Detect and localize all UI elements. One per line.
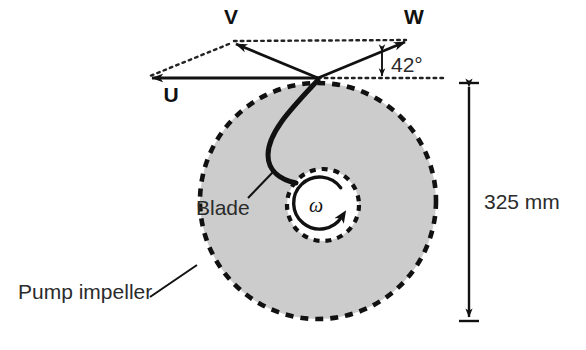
vector-label-v: V [224,5,238,28]
vector-label-u: U [163,83,178,106]
construction-line-v-w [234,40,406,41]
blade-label: Blade [196,196,250,219]
dimension-label: 325 mm [484,190,560,213]
vector-label-w: W [404,5,424,28]
omega-symbol: ω [309,194,323,216]
figure-root: ω V W U 42° Blade Pump impeller 325 mm [0,0,586,350]
vector-v-arrow [236,44,318,78]
impeller-leader-line [150,265,197,297]
impeller-label: Pump impeller [18,280,152,303]
angle-label: 42° [391,53,423,76]
construction-line-v-u [150,44,229,76]
pump-impeller-diagram: ω V W U 42° Blade Pump impeller 325 mm [0,0,586,350]
